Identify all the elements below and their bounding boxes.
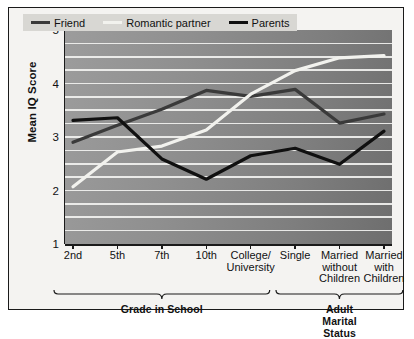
x-tick-label: Single [280,250,311,262]
legend-swatch [31,21,50,24]
plot-area [65,30,392,244]
series-line-parents [73,118,384,180]
series-lines [65,30,392,244]
x-tick-label: 5th [110,250,125,262]
x-tick-label: Married with Children [364,250,405,285]
x-tick-label: 7th [154,250,169,262]
legend-label: Romantic partner [126,17,210,29]
x-tick-label: 2nd [64,250,82,262]
x-tick-label: Married without Children [319,250,360,285]
legend-label: Parents [252,17,290,29]
legend-label: Friend [54,17,85,29]
legend-swatch [103,21,122,24]
group-label: Adult Marital Status [308,303,371,339]
y-tick-label: 1 [33,238,59,250]
legend-item: Romantic partner [103,17,210,29]
figure-frame: Mean IQ Score 12345 FriendRomantic partn… [8,7,404,310]
x-tick-label: College/ University [227,250,275,273]
y-tick-label: 2 [33,185,59,197]
y-axis-ticks: 12345 [29,30,59,244]
legend-swatch [229,21,248,24]
x-axis-line [65,244,392,246]
series-line-friend [73,89,384,142]
group-bracket [275,289,404,300]
legend-item: Parents [229,17,290,29]
y-tick-label: 3 [33,131,59,143]
chart-legend: FriendRomantic partnerParents [23,14,297,31]
group-bracket [53,289,271,300]
x-tick-label: 10th [196,250,217,262]
group-label: Grade in School [121,303,203,315]
legend-item: Friend [31,17,85,29]
y-tick-label: 4 [33,78,59,90]
